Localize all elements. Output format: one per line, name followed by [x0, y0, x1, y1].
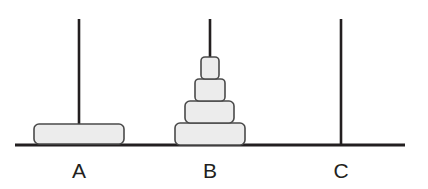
- peg-label-c: C: [333, 159, 348, 182]
- disk-a-size-4[interactable]: [34, 124, 124, 144]
- hanoi-diagram: A B C: [0, 0, 428, 189]
- peg-group-a[interactable]: A: [34, 19, 124, 182]
- peg-group-b[interactable]: B: [175, 19, 245, 182]
- disk-b-size-1[interactable]: [201, 57, 219, 79]
- disk-b-size-4[interactable]: [175, 123, 245, 145]
- hanoi-canvas: A B C: [0, 0, 428, 189]
- peg-label-a: A: [72, 159, 86, 182]
- peg-group-c[interactable]: C: [333, 19, 348, 182]
- disk-b-size-3[interactable]: [185, 101, 234, 123]
- peg-label-b: B: [203, 159, 217, 182]
- disk-b-size-2[interactable]: [195, 79, 225, 101]
